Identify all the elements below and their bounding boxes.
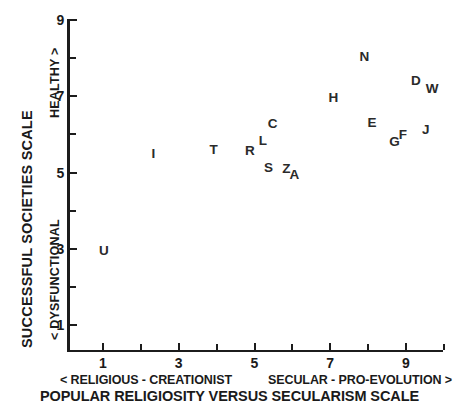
data-point-u: U <box>99 244 109 258</box>
x-tick <box>102 343 104 350</box>
x-tick-label: 3 <box>169 355 189 371</box>
y-tick <box>70 19 77 21</box>
data-point-c: C <box>268 117 278 131</box>
scatter-plot: 13579 13579 UITRLCSZAHNEGFDWJ SUCCESSFUL… <box>0 0 459 417</box>
x-tick-minor <box>291 344 293 350</box>
x-tick <box>329 343 331 350</box>
data-point-f: F <box>399 128 407 142</box>
y-tick-minor <box>70 210 76 212</box>
x-tick <box>178 343 180 350</box>
y-tick <box>70 172 77 174</box>
x-tick-minor <box>216 344 218 350</box>
x-tick <box>405 343 407 350</box>
y-tick-minor <box>70 133 76 135</box>
data-point-l: L <box>259 134 267 148</box>
x-tick-minor <box>140 344 142 350</box>
data-point-t: T <box>209 143 217 157</box>
x-axis-endpoint-captions: < RELIGIOUS - CREATIONIST SECULAR - PRO-… <box>60 373 452 387</box>
data-point-n: N <box>359 50 369 64</box>
y-tick <box>70 248 77 250</box>
y-axis-line <box>67 19 70 352</box>
x-tick-label: 9 <box>396 355 416 371</box>
y-axis-title: SUCCESSFUL SOCIETIES SCALE <box>19 110 35 348</box>
y-axis-high-caption: HEALTHY > <box>48 48 62 118</box>
x-tick-label: 5 <box>245 355 265 371</box>
data-point-d: D <box>411 74 421 88</box>
x-tick-minor <box>443 344 445 350</box>
y-tick-label: 9 <box>46 12 64 28</box>
x-tick <box>254 343 256 350</box>
x-axis-title: POPULAR RELIGIOSITY VERSUS SECULARISM SC… <box>0 388 459 404</box>
x-tick-label: 1 <box>93 355 113 371</box>
data-point-i: I <box>151 147 155 161</box>
x-tick-label: 7 <box>320 355 340 371</box>
y-tick-minor <box>70 286 76 288</box>
data-point-r: R <box>245 144 255 158</box>
x-axis-right-caption: SECULAR - PRO-EVOLUTION > <box>268 373 452 387</box>
data-point-e: E <box>367 117 376 131</box>
y-tick-label: 5 <box>46 165 64 181</box>
y-tick <box>70 324 77 326</box>
y-tick-minor <box>70 57 76 59</box>
data-point-w: W <box>426 83 439 97</box>
data-point-j: J <box>422 123 430 137</box>
x-axis-line <box>67 350 443 353</box>
data-point-h: H <box>328 91 338 105</box>
x-axis-left-caption: < RELIGIOUS - CREATIONIST <box>60 373 232 387</box>
y-tick <box>70 95 77 97</box>
data-point-s: S <box>264 162 273 176</box>
x-tick-minor <box>367 344 369 350</box>
data-point-a: A <box>289 168 299 182</box>
y-axis-low-caption: < DYSFUNCTIONAL <box>48 219 62 340</box>
